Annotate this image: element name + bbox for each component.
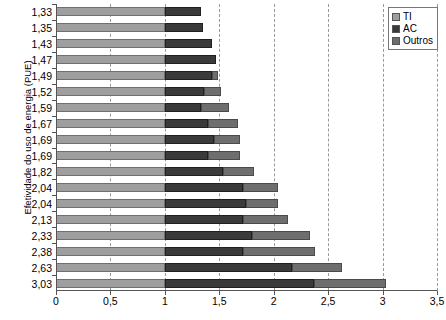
y-tick-label: 1,47 (8, 55, 52, 65)
x-tick-mark (328, 291, 329, 295)
x-tick-mark (437, 291, 438, 295)
y-tick-label: 1,43 (8, 39, 52, 49)
y-tick-mark (52, 148, 56, 149)
x-tick-label: 3,5 (422, 295, 446, 307)
legend-swatch-icon (392, 25, 400, 33)
y-tick-mark (52, 243, 56, 244)
y-tick-mark (52, 211, 56, 212)
y-tick-label: 1,52 (8, 87, 52, 97)
legend-label: Outros (403, 35, 433, 46)
x-tick-label: 0,5 (95, 295, 125, 307)
y-tick-mark (52, 259, 56, 260)
x-tick-label: 1 (150, 295, 180, 307)
legend-swatch-icon (392, 13, 400, 21)
x-tick-mark (165, 291, 166, 295)
chart-legend: TIACOutros (388, 7, 438, 50)
y-tick-label: 1,35 (8, 23, 52, 33)
x-tick-label: 1,5 (204, 295, 234, 307)
x-tick-label: 2 (259, 295, 289, 307)
plot-area (56, 4, 437, 291)
y-tick-label: 1,69 (8, 135, 52, 145)
y-tick-label: 2,04 (8, 183, 52, 193)
y-tick-label: 2,04 (8, 199, 52, 209)
legend-item-ti: TI (392, 11, 433, 22)
y-tick-label: 2,38 (8, 247, 52, 257)
y-tick-label: 1,67 (8, 119, 52, 129)
y-tick-mark (52, 20, 56, 21)
x-tick-mark (274, 291, 275, 295)
y-tick-label: 2,13 (8, 215, 52, 225)
plot-frame (56, 4, 437, 291)
y-tick-label: 3,03 (8, 279, 52, 289)
legend-label: AC (403, 23, 417, 34)
y-axis-tick-labels: 1,331,351,431,471,491,521,591,671,691,69… (8, 4, 52, 291)
x-tick-label: 0 (41, 295, 71, 307)
legend-item-outros: Outros (392, 35, 433, 46)
y-tick-mark (52, 227, 56, 228)
y-tick-mark (52, 116, 56, 117)
legend-label: TI (403, 11, 412, 22)
y-tick-mark (52, 100, 56, 101)
y-tick-mark (52, 163, 56, 164)
y-tick-label: 2,63 (8, 263, 52, 273)
y-tick-mark (52, 132, 56, 133)
x-tick-label: 3 (368, 295, 398, 307)
y-tick-label: 1,49 (8, 71, 52, 81)
x-tick-mark (110, 291, 111, 295)
y-tick-mark (52, 36, 56, 37)
y-tick-label: 1,69 (8, 151, 52, 161)
y-tick-mark (52, 68, 56, 69)
x-tick-mark (383, 291, 384, 295)
y-tick-label: 1,82 (8, 167, 52, 177)
y-tick-mark (52, 179, 56, 180)
y-tick-label: 1,33 (8, 7, 52, 17)
y-tick-label: 1,59 (8, 103, 52, 113)
y-tick-mark (52, 195, 56, 196)
y-tick-mark (52, 84, 56, 85)
legend-item-ac: AC (392, 23, 433, 34)
stacked-bar-chart: Efetividade do uso de energia (PUE) 1,33… (0, 0, 446, 320)
y-tick-label: 2,33 (8, 231, 52, 241)
x-tick-mark (219, 291, 220, 295)
legend-swatch-icon (392, 37, 400, 45)
y-tick-mark (52, 4, 56, 5)
y-tick-mark (52, 275, 56, 276)
x-tick-mark (56, 291, 57, 295)
y-tick-mark (52, 52, 56, 53)
x-tick-label: 2,5 (313, 295, 343, 307)
